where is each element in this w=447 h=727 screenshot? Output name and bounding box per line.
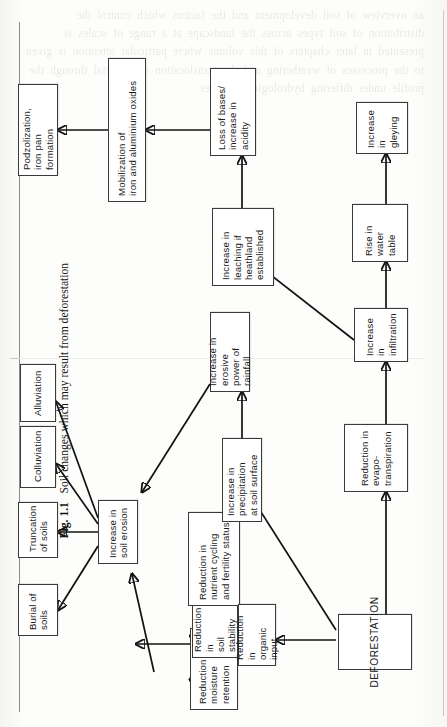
figure-caption-text: Soil changes which may result from defor… [58, 263, 71, 494]
node-infiltration[interactable]: Increase in infiltration [354, 308, 408, 362]
node-colluviation[interactable]: Colluviation [20, 426, 56, 488]
node-leaching[interactable]: Increase in leaching if heathland establ… [212, 208, 274, 286]
node-nutrient-cycling[interactable]: Reduction in nutrient cycling and fertil… [188, 512, 240, 606]
page-margin-rule-right [443, 10, 444, 716]
node-deforestation[interactable]: DEFORESTATION [338, 614, 412, 670]
node-water-table[interactable]: Rise in water table [352, 204, 408, 262]
node-precipitation[interactable]: Increase in precipitation at soil surfac… [222, 438, 262, 522]
figure-caption-label: Fig. 1.1 [58, 502, 71, 538]
edge-erosive-erosion [142, 384, 210, 492]
node-evapo-transpiration[interactable]: Reduction in evapo-transpiration [344, 424, 408, 492]
node-burial[interactable]: Burial of soils [18, 584, 58, 636]
node-mobilization[interactable]: Mobilization of iron and aluminium oxide… [108, 58, 146, 202]
figure-caption: Fig. 1.1 Soil changes which may result f… [58, 219, 71, 539]
node-erosive-power[interactable]: Increase in erosive power of rainfall [210, 312, 250, 392]
node-loss-of-bases[interactable]: Loss of bases/ increase in acidity [210, 68, 256, 156]
node-truncation[interactable]: Truncation of soils [18, 502, 58, 558]
node-gleying[interactable]: Increase in gleying [356, 102, 408, 154]
node-erosion[interactable]: Increase in soil erosion [98, 500, 138, 564]
edge-erosion-burial [58, 546, 98, 610]
node-alluviation[interactable]: Alluviation [20, 364, 56, 422]
book-page: an overview of soil development and the … [0, 0, 447, 727]
node-organic-input[interactable]: Reduction in organic input [238, 604, 276, 666]
node-podzolization[interactable]: Podzolization, iron pan formation [18, 84, 58, 176]
flowchart-stage: Burial of soils Truncation of soils Coll… [14, 14, 434, 714]
edge-moisture-erosion [132, 574, 154, 672]
